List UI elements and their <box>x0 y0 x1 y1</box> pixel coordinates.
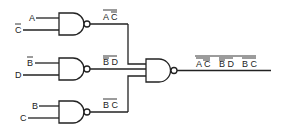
nand-gate-3: B C B C <box>20 99 128 123</box>
input-label-c: C <box>20 113 27 123</box>
final-output-term-1: A C <box>196 59 211 69</box>
nand-gate-final: A C B D B C <box>146 56 271 82</box>
nand-gate-1: A C A C <box>15 10 128 35</box>
nand-body <box>146 59 171 82</box>
output-label-3: B C <box>103 100 119 110</box>
inversion-bubble <box>171 68 177 74</box>
final-output-term-3: B C <box>242 59 258 69</box>
inversion-bubble <box>84 21 90 27</box>
inversion-bubble <box>84 109 90 115</box>
nand-body <box>59 58 84 80</box>
nand-body <box>59 13 84 35</box>
nand-body <box>59 101 84 123</box>
wire-g1-to-final <box>128 24 146 64</box>
nand-gate-2: B D B D <box>15 56 146 80</box>
wire-g3-to-final <box>128 76 146 112</box>
output-label-1: A C <box>103 12 118 22</box>
input-label-b-bar: B <box>27 58 33 68</box>
input-label-c-bar: C <box>15 25 22 35</box>
input-label-b: B <box>32 101 38 111</box>
final-output-term-2: B D <box>219 59 235 69</box>
output-label-2: B D <box>103 57 119 67</box>
inversion-bubble <box>84 66 90 72</box>
input-label-a: A <box>29 13 35 23</box>
input-label-d: D <box>15 70 22 80</box>
logic-circuit-diagram: A C A C B D B D B C B C <box>0 0 286 131</box>
